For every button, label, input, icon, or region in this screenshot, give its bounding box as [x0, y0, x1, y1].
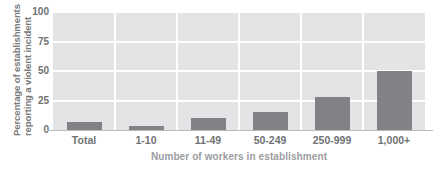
- x-axis-tick-label: 1,000+: [363, 133, 425, 147]
- x-axis-tick-label: Total: [53, 133, 115, 147]
- x-axis-title: Number of workers in establishment: [53, 151, 425, 162]
- y-axis-tick-label: 75: [24, 37, 49, 47]
- y-axis-tick-labels: 0255075100: [24, 12, 49, 130]
- y-axis-tick-label: 100: [24, 7, 49, 17]
- y-axis-tick-label: 25: [24, 96, 49, 106]
- x-axis-tick-label: 250-999: [301, 133, 363, 147]
- bar: [253, 112, 288, 130]
- bar: [67, 122, 102, 130]
- bar: [377, 71, 412, 130]
- y-axis-tick-label: 0: [24, 125, 49, 135]
- gridline-vertical: [176, 12, 178, 130]
- gridline-vertical: [238, 12, 240, 130]
- bar: [315, 97, 350, 130]
- plot-area: [53, 12, 425, 130]
- x-axis-tick-labels: Total1-1011-4950-249250-9991,000+: [53, 133, 425, 149]
- gridline-vertical: [300, 12, 302, 130]
- y-axis-title: Percentage of establishments reporting a…: [0, 0, 26, 140]
- y-axis-title-line-1: Percentage of establishments: [11, 4, 22, 136]
- bar: [191, 118, 226, 130]
- x-axis-tick-label: 1-10: [115, 133, 177, 147]
- x-axis-tick-label: 11-49: [177, 133, 239, 147]
- bar-chart: Percentage of establishments reporting a…: [0, 0, 445, 169]
- gridline-vertical: [114, 12, 116, 130]
- gridline-vertical: [362, 12, 364, 130]
- x-axis-tick-label: 50-249: [239, 133, 301, 147]
- x-axis-line: [47, 130, 433, 131]
- y-axis-tick-label: 50: [24, 66, 49, 76]
